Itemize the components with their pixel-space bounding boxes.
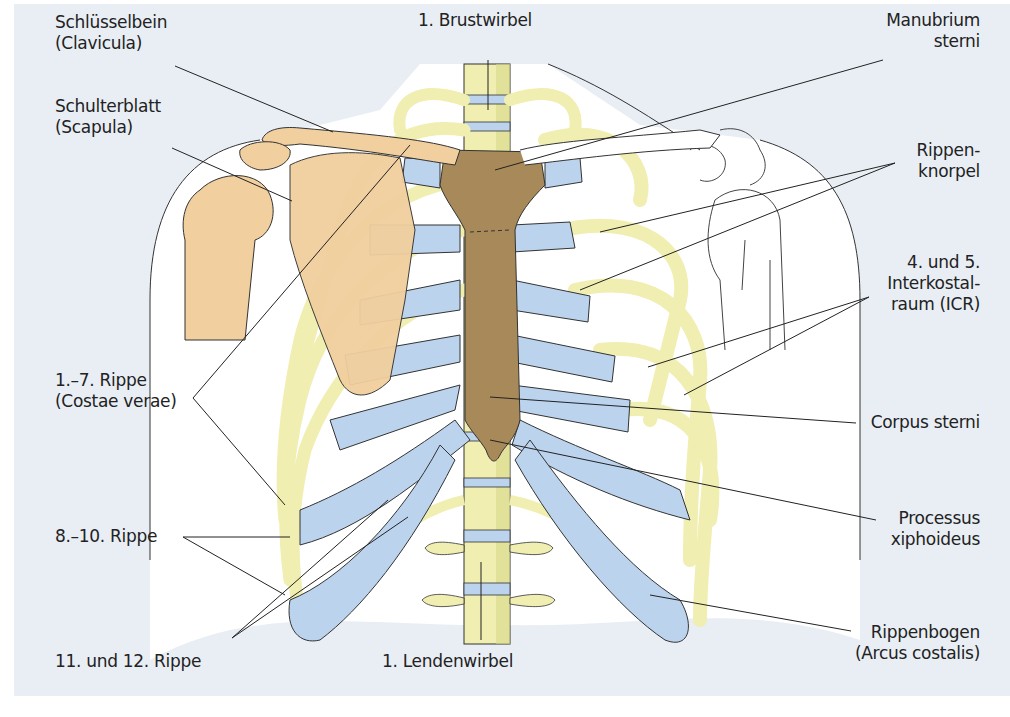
label-icr-line2: Interkostal- <box>887 273 980 294</box>
label-clavicula-line2: (Clavicula) <box>55 33 167 54</box>
label-icr-line1: 4. und 5. <box>887 252 980 273</box>
label-processus-line1: Processus <box>891 508 980 529</box>
label-icr: 4. und 5. Interkostal- raum (ICR) <box>887 252 980 315</box>
label-processus-line2: xiphoideus <box>891 529 980 550</box>
label-rippe-11-12: 11. und 12. Rippe <box>55 651 201 672</box>
label-clavicula-line1: Schlüsselbein <box>55 12 167 33</box>
label-manubrium-line2: sterni <box>886 31 980 52</box>
label-clavicula: Schlüsselbein (Clavicula) <box>55 12 167 54</box>
label-rippe-8-10: 8.–10. Rippe <box>55 526 157 547</box>
label-manubrium: Manubrium sterni <box>886 10 980 52</box>
label-rippe-11-12-line1: 11. und 12. Rippe <box>55 651 201 672</box>
label-corpus-sterni: Corpus sterni <box>871 412 980 433</box>
label-scapula-line1: Schulterblatt <box>55 96 161 117</box>
label-rippenknorpel-line1: Rippen- <box>917 140 980 161</box>
label-icr-line3: raum (ICR) <box>887 294 980 315</box>
label-brustwirbel-line1: 1. Brustwirbel <box>418 10 532 31</box>
label-scapula-line2: (Scapula) <box>55 117 161 138</box>
anatomy-figure: Schlüsselbein (Clavicula) Schulterblatt … <box>0 0 1010 717</box>
label-costae-verae: 1.–7. Rippe (Costae verae) <box>55 370 177 412</box>
label-costae-verae-line1: 1.–7. Rippe <box>55 370 177 391</box>
label-processus: Processus xiphoideus <box>891 508 980 550</box>
label-rippenknorpel-line2: knorpel <box>917 161 980 182</box>
label-rippenbogen-line1: Rippenbogen <box>855 622 980 643</box>
label-rippenbogen-line2: (Arcus costalis) <box>855 643 980 664</box>
label-brustwirbel: 1. Brustwirbel <box>418 10 532 31</box>
label-manubrium-line1: Manubrium <box>886 10 980 31</box>
label-lendenwirbel: 1. Lendenwirbel <box>382 651 513 672</box>
label-corpus-sterni-line1: Corpus sterni <box>871 412 980 433</box>
label-rippenbogen: Rippenbogen (Arcus costalis) <box>855 622 980 664</box>
label-rippe-8-10-line1: 8.–10. Rippe <box>55 526 157 547</box>
label-lendenwirbel-line1: 1. Lendenwirbel <box>382 651 513 672</box>
label-scapula: Schulterblatt (Scapula) <box>55 96 161 138</box>
label-costae-verae-line2: (Costae verae) <box>55 391 177 412</box>
label-rippenknorpel: Rippen- knorpel <box>917 140 980 182</box>
